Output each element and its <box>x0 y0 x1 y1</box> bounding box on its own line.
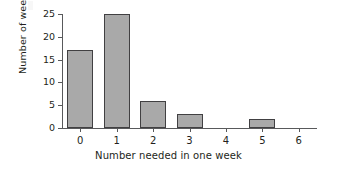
x-tick-label: 5 <box>252 135 272 147</box>
y-tick-label: 20 <box>43 31 55 42</box>
bar-category-2 <box>140 101 166 128</box>
y-tick-label: 5 <box>49 99 55 110</box>
y-axis-title: Number of weeks <box>17 0 28 92</box>
y-tick-label: 10 <box>43 76 55 87</box>
bar-category-5 <box>249 119 275 128</box>
bar-category-3 <box>177 114 203 128</box>
x-tick-mark <box>299 128 300 132</box>
bar-chart-figure: Number of weeks 0 5 10 15 20 25 <box>0 0 337 173</box>
x-tick-mark <box>80 128 81 132</box>
x-tick-mark <box>153 128 154 132</box>
x-tick-label: 6 <box>289 135 309 147</box>
y-tick-mark <box>58 128 63 129</box>
bar-category-1 <box>104 14 130 128</box>
x-tick-mark <box>262 128 263 132</box>
y-tick-label: 15 <box>43 54 55 65</box>
y-tick-mark <box>58 37 63 38</box>
scan-artifact <box>28 1 33 10</box>
bar-category-0 <box>67 50 93 128</box>
x-tick-mark <box>117 128 118 132</box>
x-tick-mark <box>190 128 191 132</box>
y-tick-mark <box>58 82 63 83</box>
x-tick-label: 4 <box>216 135 236 147</box>
x-tick-label: 3 <box>180 135 200 147</box>
x-tick-label: 0 <box>70 135 90 147</box>
y-tick-mark <box>58 14 63 15</box>
x-tick-label: 1 <box>107 135 127 147</box>
x-axis-title: Number needed in one week <box>0 150 337 161</box>
y-tick-mark <box>58 60 63 61</box>
y-tick-label: 25 <box>43 8 55 19</box>
plot-area: 0 5 10 15 20 25 <box>62 14 317 128</box>
x-tick-mark <box>226 128 227 132</box>
y-tick-mark <box>58 105 63 106</box>
y-axis-line <box>62 14 63 128</box>
y-tick-label: 0 <box>49 122 55 133</box>
x-tick-label: 2 <box>143 135 163 147</box>
